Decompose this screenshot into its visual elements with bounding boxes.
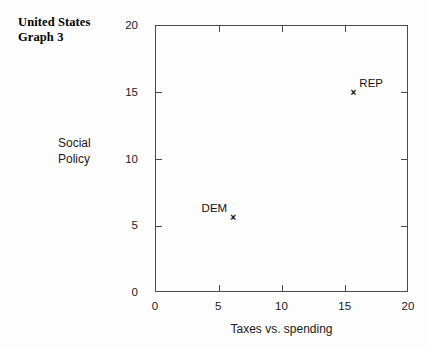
cross-marker-icon: × bbox=[349, 89, 357, 97]
data-point-label-dem: DEM bbox=[202, 202, 228, 214]
y-tick-label-5: 5 bbox=[132, 219, 138, 231]
y-tick-left-15 bbox=[156, 92, 162, 93]
y-tick-label-20: 20 bbox=[125, 19, 138, 31]
chart-title: United States Graph 3 bbox=[18, 15, 90, 44]
y-tick-left-5 bbox=[156, 226, 162, 227]
chart-canvas: United States Graph 3 Social Policy 0510… bbox=[0, 0, 428, 347]
x-axis-label: Taxes vs. spending bbox=[155, 322, 408, 336]
y-tick-label-10: 10 bbox=[125, 153, 138, 165]
x-tick-label-5: 5 bbox=[215, 300, 221, 312]
x-tick-bottom-15 bbox=[345, 285, 346, 291]
y-axis-tick-labels: 05101520 bbox=[105, 25, 138, 292]
y-tick-right-10 bbox=[401, 159, 407, 160]
x-tick-top-15 bbox=[345, 26, 346, 32]
x-tick-top-10 bbox=[282, 26, 283, 32]
x-tick-label-20: 20 bbox=[402, 300, 415, 312]
x-tick-bottom-10 bbox=[282, 285, 283, 291]
x-tick-label-15: 15 bbox=[338, 300, 351, 312]
cross-marker-icon: × bbox=[229, 214, 237, 222]
y-axis-label: Social Policy bbox=[58, 136, 91, 167]
x-tick-label-10: 10 bbox=[275, 300, 288, 312]
plot-area: ×DEM×REP bbox=[155, 25, 408, 292]
plot-inner: ×DEM×REP bbox=[156, 26, 407, 291]
x-tick-top-5 bbox=[219, 26, 220, 32]
y-tick-right-15 bbox=[401, 92, 407, 93]
data-point-label-rep: REP bbox=[359, 77, 383, 89]
x-tick-bottom-5 bbox=[219, 285, 220, 291]
y-tick-right-5 bbox=[401, 226, 407, 227]
x-axis-tick-labels: 05101520 bbox=[155, 300, 408, 316]
y-tick-label-15: 15 bbox=[125, 86, 138, 98]
y-tick-left-10 bbox=[156, 159, 162, 160]
y-tick-label-0: 0 bbox=[132, 286, 138, 298]
x-tick-label-0: 0 bbox=[152, 300, 158, 312]
